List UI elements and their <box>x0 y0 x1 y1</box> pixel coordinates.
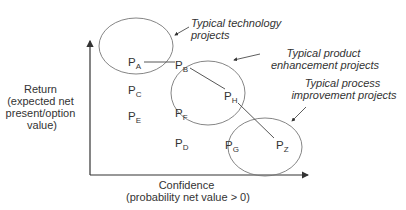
point-c: PC <box>128 84 142 99</box>
link-b-h <box>190 68 225 89</box>
tech-annotation-arrow <box>175 27 189 35</box>
process-annotation-arrow <box>292 107 306 121</box>
product-projects-label: Typical product enhancement projects <box>271 47 380 71</box>
point-h: PH <box>224 90 238 105</box>
point-e: PE <box>128 110 141 125</box>
point-f: PF <box>175 107 188 122</box>
process-projects-label: Typical process improvement projects <box>291 77 397 101</box>
process-projects-ellipse <box>228 118 302 176</box>
point-d: PD <box>175 137 189 152</box>
tech-projects-label: Typical technology projects <box>190 17 284 41</box>
point-z: PZ <box>276 139 289 154</box>
product-annotation-arrow <box>234 54 260 60</box>
y-axis-label: Return (expected net present/option valu… <box>6 83 79 131</box>
x-axis-label: Confidence (probability net value > 0) <box>126 179 250 203</box>
point-b: PB <box>175 59 188 74</box>
project-portfolio-diagram: Typical technology projects Typical prod… <box>0 0 406 210</box>
point-g: PG <box>225 139 239 154</box>
point-a: PA <box>128 56 142 71</box>
link-h-z <box>238 103 274 138</box>
